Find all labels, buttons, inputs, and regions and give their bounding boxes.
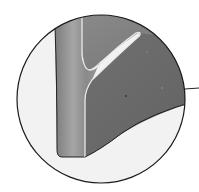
speck-mark [125, 95, 127, 97]
leader-line [185, 88, 199, 89]
speck-mark [146, 51, 147, 52]
magnified-inset-illustration [0, 0, 199, 192]
speck-mark [161, 87, 163, 89]
